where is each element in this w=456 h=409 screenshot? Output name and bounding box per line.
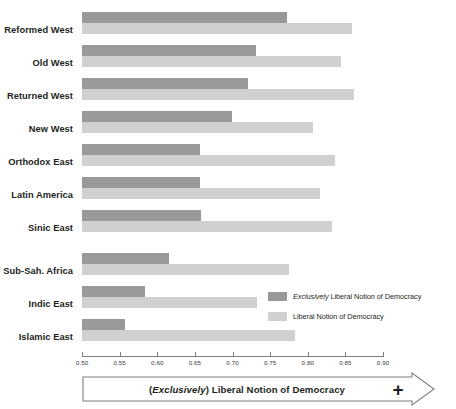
x-axis-tick — [308, 352, 309, 357]
legend-label-exclusively-liberal: Exclusively Liberal Notion of Democracy — [293, 292, 421, 301]
legend-swatch-light — [268, 312, 287, 321]
bar — [82, 144, 200, 155]
x-axis-tick — [270, 352, 271, 357]
bar — [82, 221, 332, 232]
axis-title-rest: ) Liberal Notion of Democracy — [206, 384, 345, 395]
bar — [82, 253, 169, 264]
bar — [82, 319, 125, 330]
x-axis-tick — [233, 352, 234, 357]
bar — [82, 89, 354, 100]
x-axis-tick-label: 0.65 — [189, 359, 201, 366]
x-axis-tick-label: 0.80 — [302, 359, 314, 366]
legend-swatch-dark — [268, 292, 287, 301]
legend-italic-word: Exclusively — [293, 292, 329, 301]
legend-rest-text: Liberal Notion of Democracy — [329, 292, 422, 301]
x-axis-tick — [345, 352, 346, 357]
axis-title-arrow-banner: (Exclusively) Liberal Notion of Democrac… — [82, 372, 456, 406]
chart-container: Reformed West Old West Returned West New… — [0, 0, 456, 409]
x-axis-tick — [157, 352, 158, 357]
bar — [82, 23, 352, 34]
legend-item-exclusively-liberal: Exclusively Liberal Notion of Democracy — [268, 292, 421, 301]
legend-label-liberal: Liberal Notion of Democracy — [293, 312, 384, 321]
x-axis-tick-label: 0.85 — [339, 359, 351, 366]
bar — [82, 122, 313, 133]
bar — [82, 286, 145, 297]
x-axis-tick-label: 0.60 — [151, 359, 163, 366]
category-label: Latin America — [11, 190, 73, 200]
bar — [82, 12, 287, 23]
bar — [82, 155, 335, 166]
category-label: Returned West — [7, 91, 73, 101]
category-label: Old West — [32, 58, 73, 68]
x-axis-tick-label: 0.70 — [226, 359, 238, 366]
legend-item-liberal: Liberal Notion of Democracy — [268, 312, 421, 321]
bar — [82, 264, 289, 275]
bar — [82, 330, 295, 341]
category-axis-labels: Reformed West Old West Returned West New… — [0, 0, 78, 352]
category-label: Orthodox East — [8, 157, 73, 167]
legend: Exclusively Liberal Notion of Democracy … — [268, 292, 421, 332]
bar — [82, 177, 200, 188]
bar — [82, 111, 232, 122]
category-label: Islamic East — [19, 332, 73, 342]
bar — [82, 78, 248, 89]
plus-icon: + — [381, 372, 415, 406]
axis-title-italic-word: Exclusively — [152, 384, 205, 395]
bar — [82, 56, 341, 67]
category-label: Reformed West — [4, 25, 73, 35]
x-axis-tick-label: 0.55 — [113, 359, 125, 366]
bar — [82, 188, 320, 199]
bar — [82, 45, 256, 56]
x-axis-tick — [195, 352, 196, 357]
bar — [82, 210, 201, 221]
x-axis-tick — [383, 352, 384, 357]
x-axis-tick-label: 0.50 — [76, 359, 88, 366]
x-axis-tick — [120, 352, 121, 357]
category-label: Indic East — [29, 299, 73, 309]
x-axis-tick-label: 0.75 — [264, 359, 276, 366]
x-axis-tick — [82, 352, 83, 357]
bar — [82, 297, 257, 308]
category-label: Sub-Sah. Africa — [3, 266, 73, 276]
x-axis-tick-label: 0.90 — [377, 359, 389, 366]
axis-title-text: (Exclusively) Liberal Notion of Democrac… — [82, 372, 412, 406]
category-label: New West — [29, 124, 73, 134]
category-label: Sinic East — [28, 223, 73, 233]
